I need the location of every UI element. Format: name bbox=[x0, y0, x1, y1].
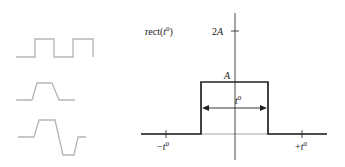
bipolar-trapezoid-pulse bbox=[18, 120, 86, 155]
amplitude-label: A bbox=[223, 70, 231, 81]
trapezoid-pulse bbox=[16, 83, 75, 100]
width-label: t0 bbox=[235, 94, 242, 106]
arrowhead-right-icon bbox=[260, 105, 267, 111]
x-tick-label-neg: −t0 bbox=[157, 140, 169, 152]
square-wave bbox=[16, 39, 93, 57]
x-tick-label-pos: +t0 bbox=[295, 140, 307, 152]
y-tick-label-2A: 2A bbox=[212, 26, 224, 37]
rect-function-diagram: rect(t0) 2A A t0 −t0 +t0 bbox=[0, 0, 345, 167]
arrowhead-left-icon bbox=[202, 105, 209, 111]
function-label: rect(t0) bbox=[145, 25, 173, 38]
